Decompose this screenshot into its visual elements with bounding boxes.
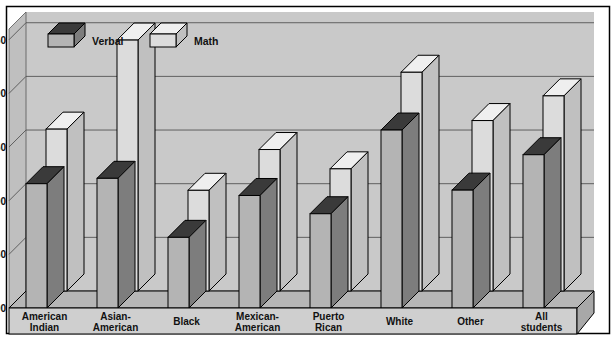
category-label-4-line-0: Puerto [313,311,345,322]
bar-math-2-side-face [209,173,226,291]
bar-verbal-1-side-face [118,161,135,308]
category-label-6-line-0: Other [457,316,484,327]
plot-left-wall [9,12,26,308]
y-tick-label-550: 550 [0,35,6,46]
bar-verbal-4-front-face [310,214,331,308]
legend-swatch-1-front [150,34,176,47]
bar-verbal-7-front-face [523,155,544,308]
bar-verbal-7-side-face [544,138,561,308]
bar-verbal-5-front-face [381,130,402,308]
bar-math-6-side-face [493,104,510,291]
y-tick-label-300: 300 [0,303,6,314]
bar-verbal-3-side-face [260,178,277,308]
category-label-7-line-1: students [521,322,563,333]
bar-math-5-side-face [422,55,439,291]
category-label-4-line-1: Rican [315,322,342,333]
bar-verbal-6-side-face [473,173,490,308]
bar-verbal-5-side-face [402,113,419,308]
bar-verbal-3-front-face [239,195,260,308]
grouped-3d-bar-chart: 300350400450500550AmericanIndianAsian-Am… [0,0,615,339]
bar-math-4-side-face [351,152,368,291]
category-label-7-line-0: All [535,311,548,322]
legend-label-math: Math [194,35,219,47]
y-tick-label-350: 350 [0,249,6,260]
category-label-1-line-1: American [93,322,139,333]
legend-swatch-0-front [48,34,74,47]
y-tick-label-400: 400 [0,196,6,207]
bar-math-0-side-face [67,112,84,291]
bar-math-1-side-face [138,23,155,291]
legend-label-verbal: Verbal [92,35,124,47]
category-label-0-line-1: Indian [30,322,59,333]
category-label-1-line-0: Asian- [100,311,131,322]
bar-verbal-2-front-face [168,237,189,308]
bar-math-7-side-face [564,79,581,291]
bar-verbal-0-front-face [26,184,47,308]
category-label-3-line-1: American [235,322,281,333]
bar-math-3-side-face [280,133,297,291]
bar-verbal-1-front-face [97,178,118,308]
y-tick-label-500: 500 [0,88,6,99]
bar-verbal-0-side-face [47,167,64,308]
chart-container: 300350400450500550AmericanIndianAsian-Am… [0,0,615,339]
bar-verbal-6-front-face [452,190,473,308]
category-label-2-line-0: Black [173,316,200,327]
category-label-0-line-0: American [22,311,68,322]
category-label-5-line-0: White [386,316,414,327]
category-label-3-line-0: Mexican- [236,311,279,322]
bar-verbal-4-side-face [331,197,348,308]
y-tick-label-450: 450 [0,142,6,153]
